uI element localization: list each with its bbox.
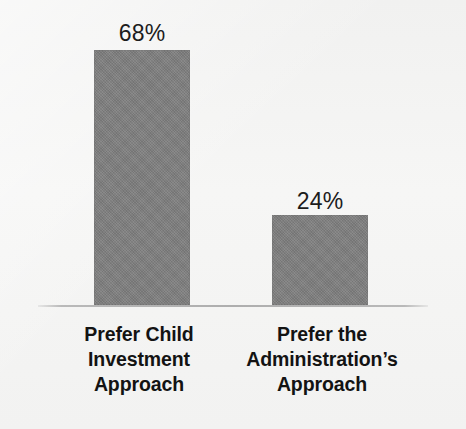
bar-chart: 68% 24% Prefer Child Investment Approach… [0,0,466,429]
category-label-1-line-2: Investment [34,347,244,372]
plot-area: 68% 24% Prefer Child Investment Approach… [0,0,466,429]
category-label-2: Prefer the Administration’s Approach [217,322,427,397]
bar-value-label-1: 68% [72,22,212,45]
axis-baseline [38,305,428,307]
bar-prefer-the-administrations-approach [272,215,368,305]
category-label-2-line-2: Administration’s [217,347,427,372]
category-label-2-line-1: Prefer the [217,322,427,347]
category-label-1: Prefer Child Investment Approach [34,322,244,397]
category-label-2-line-3: Approach [217,372,427,397]
bar-prefer-child-investment-approach [94,50,190,305]
bar-value-label-2: 24% [250,190,390,213]
category-label-1-line-3: Approach [34,372,244,397]
category-label-1-line-1: Prefer Child [34,322,244,347]
